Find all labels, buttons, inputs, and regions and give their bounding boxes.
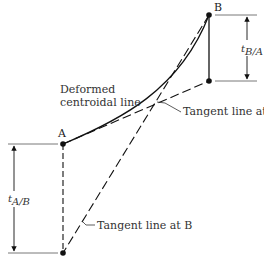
leader-tangent-b xyxy=(83,222,95,225)
tangent-a-end-dot xyxy=(206,78,212,84)
curve-label-line1: Deformed xyxy=(60,83,115,96)
curve-label-line2: centroidal line xyxy=(60,96,141,109)
point-a-dot xyxy=(60,141,66,147)
deflection-diagram: tB/A tA/B A B Deformed centroidal line T… xyxy=(0,0,264,265)
deformed-centroidal-curve xyxy=(63,15,209,144)
tangent-b-label: Tangent line at B xyxy=(97,219,192,232)
t-ab-label: tA/B xyxy=(8,193,30,207)
tangent-b-end-dot xyxy=(60,250,66,256)
point-b-label: B xyxy=(214,1,222,14)
t-ba-label: tB/A xyxy=(241,43,263,57)
point-b-dot xyxy=(206,12,212,18)
point-a-label: A xyxy=(57,127,67,140)
leader-tangent-a xyxy=(157,102,181,112)
tangent-a-label: Tangent line at A xyxy=(183,105,264,118)
